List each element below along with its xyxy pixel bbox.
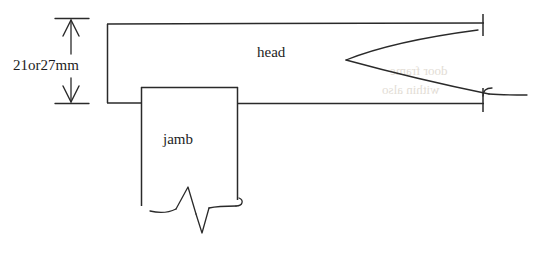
diagram-drawing bbox=[0, 0, 551, 262]
head-seal-hook bbox=[483, 88, 492, 96]
head-top-edge bbox=[107, 23, 484, 24]
head-seal-return-tail bbox=[489, 94, 527, 95]
diagram-canvas: door frame within also bbox=[0, 0, 551, 262]
jamb-seal-valley bbox=[196, 208, 209, 233]
jamb-seal-right-run bbox=[209, 206, 236, 208]
jamb-label: jamb bbox=[163, 131, 193, 148]
head-seal-lower-sweep bbox=[346, 60, 489, 94]
head-label: head bbox=[257, 44, 285, 61]
jamb-seal-left-run bbox=[150, 209, 176, 212]
jamb-seal-peak bbox=[176, 187, 196, 214]
jamb-seal-profile bbox=[150, 187, 242, 233]
head-outline bbox=[107, 14, 484, 112]
dimension-label: 21or27mm bbox=[13, 57, 79, 74]
head-seal-upper-sweep bbox=[346, 30, 478, 60]
head-seal-profile bbox=[346, 30, 527, 96]
